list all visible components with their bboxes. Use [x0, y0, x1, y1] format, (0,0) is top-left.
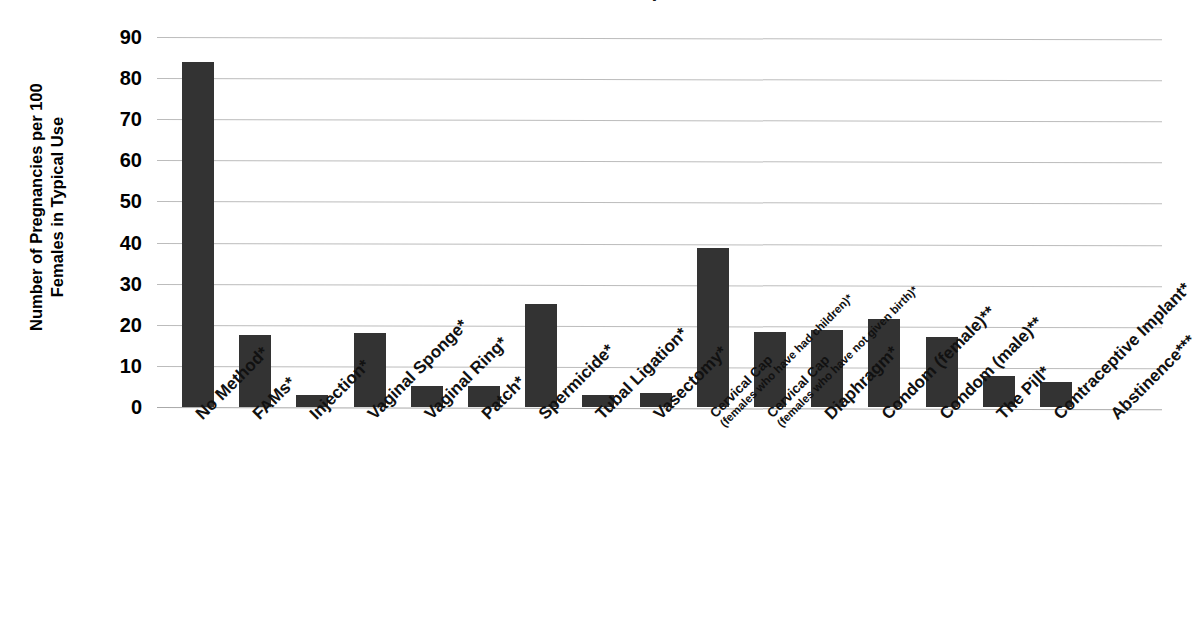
y-tick-label: 60	[96, 150, 142, 170]
gridline	[157, 160, 1162, 163]
bar	[182, 62, 214, 407]
gridline	[157, 325, 1162, 328]
y-tick-label: 50	[96, 191, 142, 211]
gridline	[157, 78, 1162, 81]
y-tick-label: 40	[96, 233, 142, 253]
y-tick-label: 30	[96, 274, 142, 294]
y-tick-label: 80	[96, 68, 142, 88]
y-tick-label: 0	[96, 397, 142, 417]
y-tick-label: 10	[96, 356, 142, 376]
y-tick-label: 20	[96, 315, 142, 335]
x-axis-tick-labels: No Method*FAMs*Injection*Vaginal Sponge*…	[157, 410, 1162, 630]
gridline	[157, 243, 1162, 246]
gridline	[157, 37, 1162, 40]
gridline	[157, 284, 1162, 287]
gridline	[157, 119, 1162, 122]
y-tick-label: 70	[96, 109, 142, 129]
chart-title: Effectiveness of Contraceptive Methods	[0, 0, 1184, 4]
gridline	[157, 201, 1162, 204]
y-tick-label: 90	[96, 27, 142, 47]
